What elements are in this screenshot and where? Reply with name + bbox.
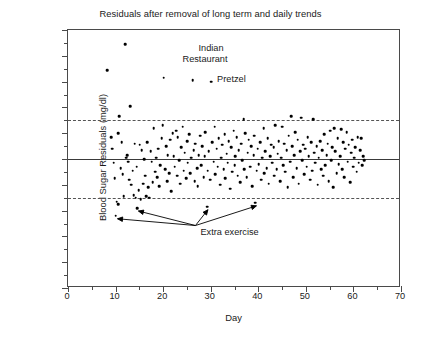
- data-point: [241, 159, 244, 162]
- data-point: [355, 171, 358, 174]
- data-point: [114, 214, 117, 217]
- data-point: [217, 165, 220, 168]
- data-point: [253, 134, 256, 137]
- data-point: [272, 146, 275, 149]
- data-point: [161, 124, 164, 127]
- x-tick-label-40: 40: [242, 291, 272, 301]
- data-point: [188, 133, 191, 136]
- data-point: [247, 151, 250, 154]
- data-point: [356, 136, 359, 139]
- data-point: [239, 181, 242, 184]
- annotation-indian-restaurant-line2: Restaurant: [183, 54, 228, 64]
- data-point: [310, 141, 313, 144]
- x-minor-tick: [139, 286, 140, 290]
- x-tick-label-30: 30: [195, 291, 225, 301]
- data-point: [130, 184, 133, 187]
- data-point: [149, 150, 152, 153]
- x-tick-label-70: 70: [385, 291, 415, 301]
- data-point: [223, 133, 226, 136]
- data-point: [155, 156, 158, 159]
- data-point: [325, 154, 328, 157]
- data-point: [324, 164, 327, 167]
- y-axis-label: Blood Sugar Residuals (mg/dl): [97, 28, 108, 288]
- data-point: [118, 115, 121, 118]
- data-point: [350, 151, 353, 154]
- data-point: [257, 163, 260, 166]
- data-point: [143, 158, 146, 161]
- data-point: [267, 182, 270, 185]
- data-point: [120, 141, 123, 144]
- data-point: [307, 155, 310, 158]
- data-point: [165, 145, 168, 148]
- data-point: [152, 127, 155, 130]
- data-point: [311, 169, 314, 172]
- data-point: [227, 162, 230, 165]
- x-minor-tick: [330, 286, 331, 290]
- data-point: [296, 138, 299, 141]
- data-point: [207, 169, 210, 172]
- data-point: [321, 149, 324, 152]
- data-point: [156, 176, 159, 179]
- data-point: [181, 125, 184, 128]
- data-point: [354, 146, 357, 149]
- data-point: [182, 169, 185, 172]
- data-point: [180, 146, 183, 149]
- data-point: [126, 154, 129, 157]
- data-point: [135, 165, 138, 168]
- data-point: [283, 142, 286, 145]
- data-point: [176, 174, 179, 177]
- data-point: [237, 149, 240, 152]
- data-point: [320, 168, 323, 171]
- data-point: [333, 127, 336, 130]
- data-point: [133, 142, 136, 145]
- data-point: [213, 125, 216, 128]
- data-point: [266, 167, 269, 170]
- data-point: [243, 168, 246, 171]
- data-point: [139, 144, 142, 147]
- data-point: [139, 198, 142, 201]
- data-point: [284, 171, 287, 174]
- data-point: [196, 167, 199, 170]
- data-point: [303, 173, 306, 176]
- y-minor-tick: [64, 275, 68, 276]
- data-point: [219, 184, 222, 187]
- data-point: [296, 167, 299, 170]
- data-point: [117, 203, 120, 206]
- x-tick-label-10: 10: [100, 291, 130, 301]
- data-point: [345, 131, 348, 134]
- data-point: [185, 177, 188, 180]
- data-point: [199, 134, 202, 137]
- data-point: [357, 162, 360, 165]
- data-point: [179, 182, 182, 185]
- data-point: [299, 150, 302, 153]
- data-point: [346, 160, 349, 163]
- data-point: [206, 205, 209, 208]
- data-point: [191, 79, 194, 82]
- data-point: [252, 154, 255, 157]
- annotation-extra-exercise: Extra exercise: [200, 227, 258, 237]
- data-point: [359, 149, 362, 152]
- data-point: [281, 125, 284, 128]
- data-point: [231, 171, 234, 174]
- data-point: [144, 174, 147, 177]
- x-minor-tick: [187, 286, 188, 290]
- data-point: [292, 176, 295, 179]
- data-point: [173, 165, 176, 168]
- data-point: [256, 169, 259, 172]
- y-tick-80: [62, 56, 68, 57]
- data-point: [286, 149, 289, 152]
- data-point: [246, 176, 249, 179]
- y-minor-tick: [64, 224, 68, 225]
- x-axis-label: Day: [67, 312, 400, 323]
- data-point: [351, 138, 354, 141]
- data-point: [312, 118, 315, 121]
- data-point: [136, 207, 139, 210]
- data-point: [327, 180, 330, 183]
- x-tick-label-20: 20: [147, 291, 177, 301]
- y-minor-tick: [64, 69, 68, 70]
- data-point: [218, 137, 221, 140]
- data-point: [340, 128, 343, 131]
- data-point: [140, 149, 143, 152]
- data-point: [168, 172, 171, 175]
- data-point: [263, 172, 266, 175]
